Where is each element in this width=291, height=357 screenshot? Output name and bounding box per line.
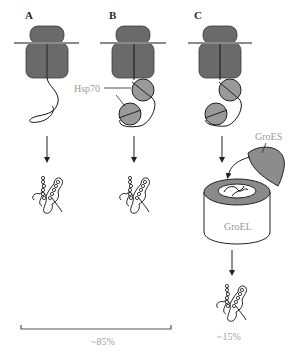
yield-label-c: ~15% [217,331,241,342]
protein-folding-diagram: A B C Hsp70 [0,0,291,357]
nascent-chain [30,78,58,122]
hsp70-label: Hsp70 [74,83,100,94]
panel-a [14,26,79,213]
yield-label-ab: ~85% [91,336,115,347]
yield-bracket [21,325,171,329]
panel-label-b: B [109,9,117,21]
hsp70-icon [132,79,154,101]
panel-b: Hsp70 [74,26,166,213]
folded-protein-icon [217,284,247,321]
panel-label-c: C [194,9,202,21]
groes-label: GroES [255,131,282,142]
folded-protein-icon [33,176,63,213]
groel-label: GroEL [224,221,252,232]
groes-icon [248,147,284,186]
groel-icon [204,179,270,244]
panel-c: GroES GroEL ~15% [188,26,284,342]
panel-label-a: A [25,9,33,21]
ribosome-icon [14,26,79,78]
ribosome-icon [100,26,166,78]
folded-protein-icon [120,176,150,213]
curved-arrow-icon [228,157,250,176]
